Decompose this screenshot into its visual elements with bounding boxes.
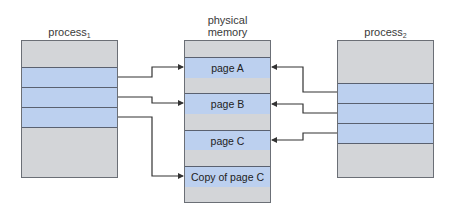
arrow-p1-to-page-b — [118, 97, 183, 103]
arrow-p1-to-copy-of-page-c — [118, 117, 183, 176]
arrow-p2-to-page-c — [272, 133, 337, 140]
arrow-p2-to-page-a — [272, 67, 337, 92]
arrow-p2-to-page-b — [272, 104, 337, 113]
arrow-p1-to-page-a — [118, 67, 183, 77]
mapping-arrows — [0, 0, 458, 215]
